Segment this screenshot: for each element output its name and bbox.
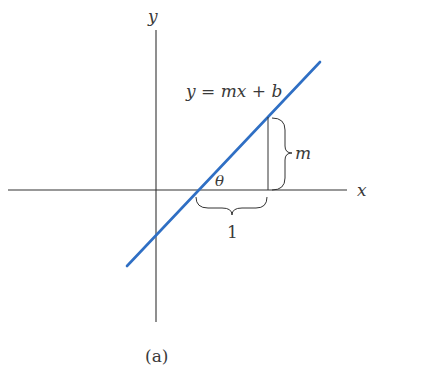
rise-brace	[272, 118, 292, 190]
x-axis-label: x	[357, 180, 367, 200]
run-one-label: 1	[227, 222, 238, 242]
rise-m-label: m	[295, 143, 311, 163]
slope-diagram: y x y = mx + b θ m 1 (a)	[0, 0, 423, 366]
equation-label: y = mx + b	[185, 81, 282, 101]
y-axis-label: y	[147, 6, 158, 26]
figure-caption: (a)	[145, 346, 168, 366]
run-brace	[196, 197, 267, 215]
angle-theta-label: θ	[215, 172, 224, 190]
